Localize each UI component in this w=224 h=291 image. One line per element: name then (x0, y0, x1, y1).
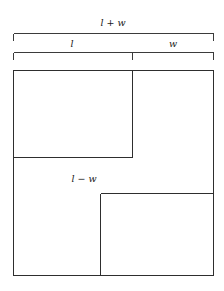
measure-bar-split: l w (14, 38, 214, 60)
center-square (101, 158, 133, 194)
bottom-right-rectangle (101, 194, 214, 276)
figure-canvas: l + w l w l − w (0, 0, 224, 291)
geometry-figure: l + w l w l − w (0, 0, 224, 291)
outer-square (14, 71, 214, 276)
top-left-rectangle (14, 71, 133, 158)
label-total-width: l + w (100, 17, 125, 28)
label-segment-left: l (70, 38, 73, 49)
internal-divisions (14, 71, 214, 276)
measure-bar-total: l + w (14, 17, 214, 41)
figure-regions (14, 71, 214, 276)
top-right-rectangle (133, 71, 214, 194)
label-segment-right: w (169, 38, 177, 49)
label-inner-square: l − w (71, 173, 96, 184)
